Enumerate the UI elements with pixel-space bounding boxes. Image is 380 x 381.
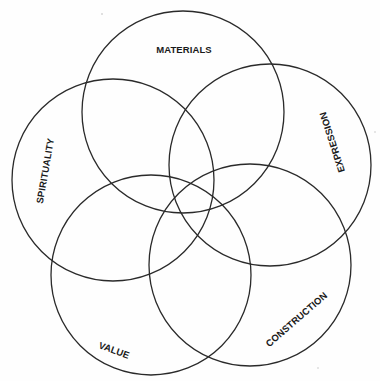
circle-group (12, 11, 371, 375)
scan-speck (374, 131, 375, 132)
scan-speck (101, 13, 103, 15)
label-expression: EXPRESSION (317, 111, 347, 174)
label-spirituality: SPIRITUALITY (34, 137, 56, 205)
label-group: MATERIALSSPIRITUALITYEXPRESSIONVALUECONS… (34, 44, 347, 361)
venn-diagram: MATERIALSSPIRITUALITYEXPRESSIONVALUECONS… (0, 0, 380, 381)
scan-speck (317, 367, 318, 368)
venn-svg: MATERIALSSPIRITUALITYEXPRESSIONVALUECONS… (0, 0, 380, 381)
label-value: VALUE (97, 339, 131, 360)
label-construction: CONSTRUCTION (263, 290, 329, 349)
label-materials: MATERIALS (156, 44, 212, 55)
